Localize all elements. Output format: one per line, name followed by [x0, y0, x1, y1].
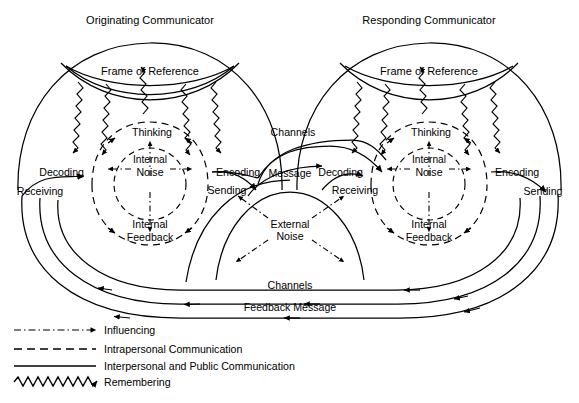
left-thinking-label: Thinking [132, 126, 172, 138]
legend-swatch-remembering [14, 377, 97, 386]
legend: Influencing Intrapersonal Communication … [14, 324, 295, 388]
channels-bottom-label: Channels [268, 279, 313, 291]
legend-label-remembering: Remembering [104, 376, 171, 388]
right-thinking-label: Thinking [411, 126, 451, 138]
feedback-loop-arcs [22, 194, 558, 318]
right-frame-of-reference-label: Frame of Reference [380, 65, 478, 77]
communication-model-svg: Originating Communicator Responding Comm… [0, 0, 579, 403]
legend-label-intrapersonal: Intrapersonal Communication [104, 343, 242, 355]
right-encoding-label: Encoding [495, 166, 539, 178]
left-receiving-label: Receiving [17, 185, 64, 197]
left-internal-feedback-line1: Internal [132, 218, 167, 230]
external-noise-line2: Noise [276, 230, 303, 242]
left-sending-label: Sending [208, 184, 247, 196]
right-communicator-title: Responding Communicator [362, 14, 496, 26]
message-label: Message [269, 167, 312, 179]
left-decoding-label: Decoding [39, 166, 84, 178]
right-receiving-label: Receiving [332, 184, 379, 196]
left-noise-label: Noise [136, 166, 163, 178]
diagram-canvas: Originating Communicator Responding Comm… [0, 0, 579, 403]
right-noise-label: Noise [415, 166, 442, 178]
legend-label-interpersonal: Interpersonal and Public Communication [104, 360, 295, 372]
right-decoding-label: Decoding [318, 166, 363, 178]
legend-label-influencing: Influencing [104, 324, 155, 336]
left-communicator-title: Originating Communicator [86, 14, 214, 26]
left-internal-feedback-line2: Feedback [127, 231, 174, 243]
left-frame-of-reference-label: Frame of Reference [101, 65, 199, 77]
feedback-message-label: Feedback Message [244, 301, 337, 313]
left-encoding-label: Encoding [216, 166, 260, 178]
left-internal-label: Internal [133, 154, 167, 165]
right-sending-label: Sending [524, 185, 563, 197]
channels-top-label: Channels [271, 126, 316, 138]
right-internal-feedback-line1: Internal [411, 218, 446, 230]
right-internal-label: Internal [412, 154, 446, 165]
right-internal-feedback-line2: Feedback [406, 231, 453, 243]
external-noise-line1: External [271, 218, 310, 230]
